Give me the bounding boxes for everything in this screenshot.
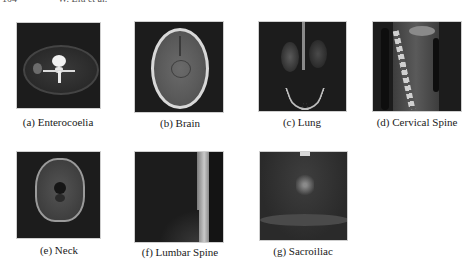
image-brain	[134, 21, 224, 113]
running-head: W. Liu et al.	[58, 0, 107, 4]
image-enterocoelia	[16, 22, 101, 109]
image-lung	[258, 21, 347, 112]
caption-neck: (e) Neck	[40, 244, 78, 256]
caption-cervical-spine: (d) Cervical Spine	[377, 116, 458, 128]
caption-sacroiliac: (g) Sacroiliac	[273, 245, 333, 257]
image-neck	[16, 151, 101, 239]
page-number: 104	[2, 0, 17, 4]
image-sacroiliac	[259, 151, 348, 241]
caption-enterocoelia: (a) Enterocoelia	[23, 116, 94, 128]
caption-lumbar-spine: (f) Lumbar Spine	[142, 246, 218, 258]
image-cervical-spine	[372, 21, 462, 112]
caption-lung: (c) Lung	[283, 116, 321, 128]
image-lumbar-spine	[134, 151, 224, 243]
caption-brain: (b) Brain	[160, 117, 200, 129]
